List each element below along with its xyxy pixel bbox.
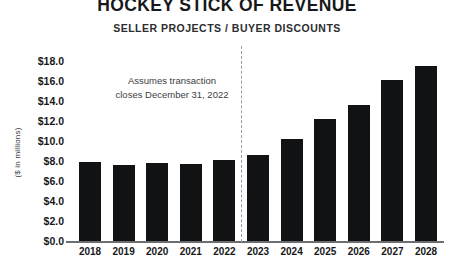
transaction-close-note: Assumes transaction closes December 31, … [108, 74, 236, 101]
annotation-line-1: Assumes transaction [108, 74, 236, 88]
historical-projection-divider-icon [241, 46, 242, 242]
annotation-line-2: closes December 31, 2022 [108, 88, 236, 102]
x-axis-ticks: 2018201920202021202220232024202520262027… [0, 0, 454, 271]
x-tick-label: 2028 [406, 246, 446, 257]
revenue-bar-chart: HOCKEY STICK OF REVENUE SELLER PROJECTS … [0, 0, 454, 271]
